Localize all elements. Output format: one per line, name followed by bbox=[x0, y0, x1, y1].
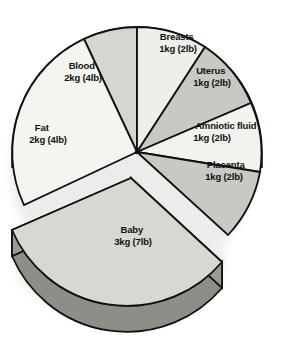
pie-chart-canvas: Breasts 1kg (2lb) Uterus 1kg (2lb) Amnio… bbox=[0, 0, 285, 348]
pie-chart-figure: Breasts 1kg (2lb) Uterus 1kg (2lb) Amnio… bbox=[0, 0, 285, 348]
